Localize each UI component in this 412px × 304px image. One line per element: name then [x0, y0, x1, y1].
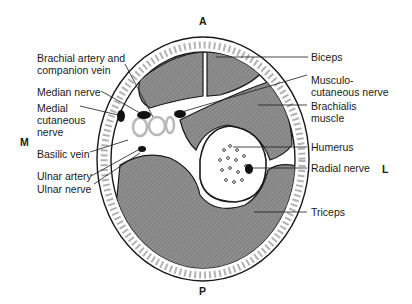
orientation-posterior: P: [199, 285, 206, 297]
label-triceps: Triceps: [311, 206, 345, 218]
label-basilic-vein: Basilic vein: [37, 148, 90, 160]
orientation-anterior: A: [199, 15, 207, 27]
label-ulnar-artery: Ulnar artery: [37, 170, 92, 182]
label-medial-cutaneous-nerve: Medial cutaneous nerve: [37, 102, 85, 138]
orientation-lateral: L: [382, 163, 388, 175]
medial-cutaneous-nerve-shape: [117, 110, 125, 122]
label-humerus: Humerus: [311, 141, 354, 153]
label-brachial-artery: Brachial artery and companion vein: [37, 52, 125, 76]
label-median-nerve: Median nerve: [37, 86, 101, 98]
label-brachialis-muscle: Brachialis muscle: [311, 100, 357, 124]
label-radial-nerve: Radial nerve: [311, 162, 370, 174]
orientation-medial: M: [20, 136, 29, 148]
ulnar-nerve-shape: [138, 146, 146, 152]
label-musculocutaneous-nerve: Musculo- cutaneous nerve: [311, 74, 389, 98]
label-ulnar-nerve: Ulnar nerve: [37, 183, 91, 195]
radial-nerve-shape: [245, 164, 253, 174]
label-biceps: Biceps: [311, 51, 343, 63]
humerus-bone: [200, 126, 266, 202]
